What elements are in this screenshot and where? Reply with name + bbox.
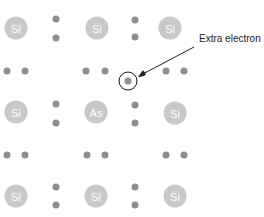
extra-electron-label: Extra electron (199, 33, 261, 44)
